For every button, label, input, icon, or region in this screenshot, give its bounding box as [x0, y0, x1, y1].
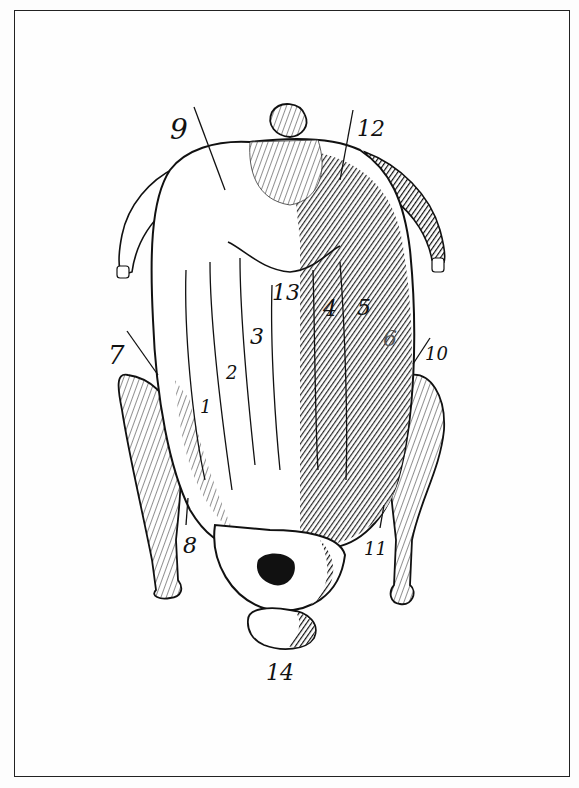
- label-4: 4: [323, 298, 337, 320]
- label-13: 13: [272, 282, 300, 304]
- label-8: 8: [183, 535, 197, 557]
- label-12: 12: [357, 118, 385, 140]
- right-wing-tip: [432, 258, 444, 272]
- label-7: 7: [108, 342, 125, 368]
- label-14: 14: [266, 662, 294, 684]
- label-10: 10: [425, 345, 448, 363]
- label-5: 5: [357, 297, 371, 319]
- label-6: 6: [383, 328, 397, 350]
- label-3: 3: [250, 326, 264, 348]
- label-11: 11: [364, 540, 387, 558]
- label-9: 9: [170, 116, 188, 144]
- left-wing-tip: [117, 266, 129, 278]
- neck-knot: [270, 104, 306, 137]
- label-2: 2: [226, 364, 237, 382]
- label-1: 1: [200, 398, 211, 416]
